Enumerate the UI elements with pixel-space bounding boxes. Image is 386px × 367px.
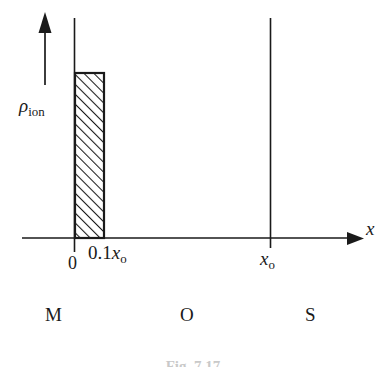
region-label-oxide: O (180, 305, 194, 324)
x-tick-bar-edge-symbol: x (112, 242, 120, 263)
x-tick-label-xo: xo (260, 249, 275, 268)
x-tick-label-origin: 0 (68, 254, 77, 272)
x-tick-label-bar-edge: 0.1xo (88, 243, 127, 262)
y-axis-label-symbol: ρ (19, 95, 28, 116)
figure-container: ρion x 0 0.1xo xo M O S Fig. 7.17 (0, 0, 386, 367)
y-axis-label: ρion (19, 96, 45, 115)
y-axis-label-subscript: ion (28, 104, 45, 119)
rho-arrow-head (39, 12, 52, 33)
figure-caption: Fig. 7.17 (0, 356, 386, 367)
region-label-semiconductor: S (305, 305, 316, 324)
x-tick-bar-edge-value: 0.1 (88, 242, 112, 263)
x-axis-arrowhead (347, 232, 364, 245)
x-tick-xo-subscript: o (268, 257, 274, 272)
region-label-metal: M (45, 305, 62, 324)
x-axis-label: x (366, 219, 374, 238)
rho-ion-bar (75, 73, 104, 238)
x-tick-bar-edge-subscript: o (120, 251, 126, 266)
